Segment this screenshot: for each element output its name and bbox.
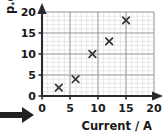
- y-tick-label: 15: [21, 27, 36, 40]
- x-tick-label: 0: [38, 102, 46, 115]
- x-tick-label: 20: [146, 102, 162, 115]
- y-tick-label: 20: [21, 6, 37, 19]
- x-tick-label: 5: [66, 102, 74, 115]
- right-arrow-icon: [0, 107, 34, 123]
- scatter-plot: 05101520 05101520 Current / A p.d. / V: [0, 0, 165, 135]
- y-tick-label: 0: [28, 90, 36, 103]
- y-tick-labels: 05101520: [21, 6, 37, 103]
- y-tick-label: 10: [21, 48, 37, 61]
- y-tick-label: 5: [28, 69, 36, 82]
- x-axis-title: Current / A: [81, 119, 152, 133]
- graph-figure: 05101520 05101520 Current / A p.d. / V: [0, 0, 165, 135]
- y-axis-title: p.d. / V: [3, 0, 17, 14]
- x-tick-label: 10: [90, 102, 106, 115]
- x-tick-label: 15: [118, 102, 133, 115]
- x-tick-labels: 05101520: [38, 102, 162, 115]
